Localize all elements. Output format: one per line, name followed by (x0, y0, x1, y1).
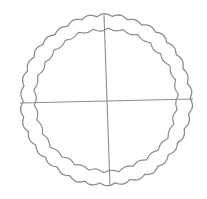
sketch-canvas (0, 0, 207, 199)
